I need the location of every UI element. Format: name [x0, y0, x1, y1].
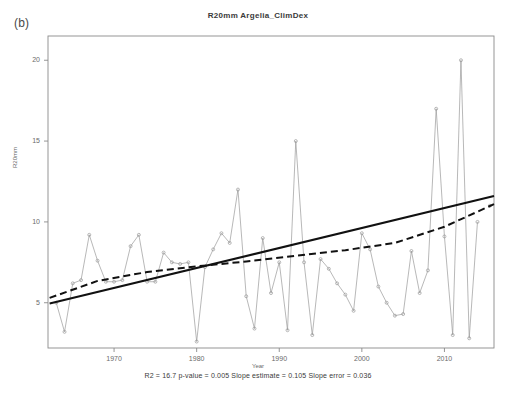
x-tick-label: 1980 [182, 355, 212, 362]
smoothed-trend-line [50, 204, 494, 298]
figure-panel: (b) R20mm Argelia_ClimDex R20mm Year R2 … [0, 0, 516, 394]
y-tick-label: 5 [22, 299, 40, 306]
y-tick-label: 15 [22, 137, 40, 144]
x-tick-label: 1970 [99, 355, 129, 362]
linear-trend-line [50, 196, 494, 304]
data-series-line [56, 60, 477, 341]
y-tick-label: 10 [22, 218, 40, 225]
x-tick-label: 2000 [347, 355, 377, 362]
y-tick-label: 20 [22, 56, 40, 63]
x-tick-label: 2010 [429, 355, 459, 362]
x-tick-label: 1990 [264, 355, 294, 362]
plot-frame [48, 36, 494, 348]
plot-canvas [0, 0, 516, 394]
